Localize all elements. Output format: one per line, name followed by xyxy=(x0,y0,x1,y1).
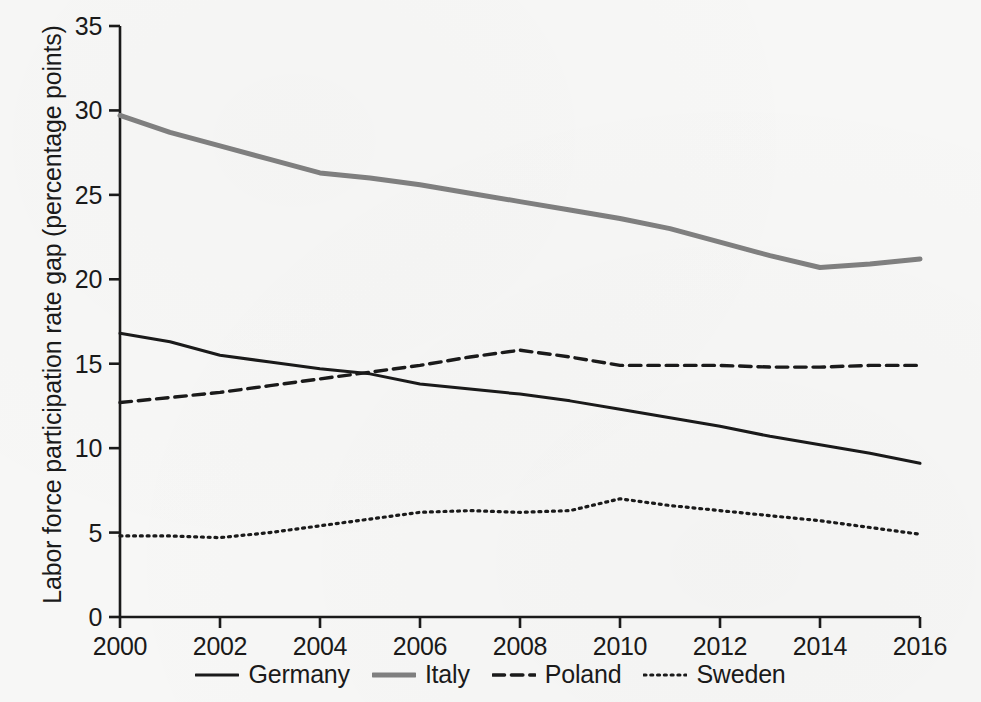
x-tick-label: 2006 xyxy=(393,632,447,661)
legend-swatch-poland xyxy=(492,668,536,682)
x-tick-label: 2012 xyxy=(693,632,747,661)
legend-label: Sweden xyxy=(696,660,785,689)
y-tick-label: 30 xyxy=(30,96,102,125)
y-tick-label: 20 xyxy=(30,265,102,294)
x-tick-label: 2014 xyxy=(793,632,847,661)
legend-swatch-germany xyxy=(195,668,239,682)
y-tick-label: 15 xyxy=(30,349,102,378)
legend-item-sweden: Sweden xyxy=(643,660,785,689)
legend-item-italy: Italy xyxy=(372,660,470,689)
legend-swatch-italy xyxy=(372,668,416,682)
legend-item-germany: Germany xyxy=(195,660,349,689)
series-line-sweden xyxy=(120,499,920,538)
x-tick-label: 2010 xyxy=(593,632,647,661)
axes xyxy=(120,26,920,617)
chart-figure: Labor force participation rate gap (perc… xyxy=(0,0,981,702)
x-tick-label: 2002 xyxy=(193,632,247,661)
y-tick-label: 35 xyxy=(30,12,102,41)
y-tick-label: 10 xyxy=(30,434,102,463)
legend-swatch-sweden xyxy=(643,668,687,682)
chart-legend: GermanyItalyPolandSweden xyxy=(0,660,981,689)
series-line-italy xyxy=(120,115,920,267)
legend-label: Germany xyxy=(248,660,349,689)
data-series xyxy=(120,115,920,537)
legend-item-poland: Poland xyxy=(492,660,622,689)
legend-label: Italy xyxy=(425,660,470,689)
series-line-germany xyxy=(120,333,920,463)
line-chart-plot xyxy=(0,0,981,702)
x-tick-label: 2016 xyxy=(893,632,947,661)
y-tick-label: 5 xyxy=(30,518,102,547)
y-tick-label: 0 xyxy=(30,603,102,632)
y-tick-label: 25 xyxy=(30,180,102,209)
x-tick-label: 2008 xyxy=(493,632,547,661)
x-tick-label: 2004 xyxy=(293,632,347,661)
x-tick-label: 2000 xyxy=(93,632,147,661)
legend-label: Poland xyxy=(545,660,622,689)
